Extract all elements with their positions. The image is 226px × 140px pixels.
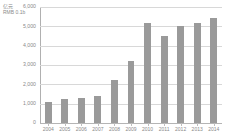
x-axis-tick-mark: [197, 123, 198, 126]
bar: [194, 23, 201, 123]
x-axis-tick-label: 2005: [57, 126, 74, 132]
x-axis-tick-mark: [131, 123, 132, 126]
x-axis-tick-label: 2012: [172, 126, 189, 132]
bar: [177, 26, 184, 123]
x-axis-tick-mark: [214, 123, 215, 126]
y-axis-tick-label: 1,000: [0, 101, 36, 106]
bar: [78, 98, 85, 123]
x-axis-tick-label: 2007: [90, 126, 107, 132]
y-axis-tick-label: 5,000: [0, 24, 36, 29]
x-axis-tick-label: 2013: [189, 126, 206, 132]
x-axis-tick-mark: [114, 123, 115, 126]
y-axis-tick-label: 3,000: [0, 62, 36, 67]
bar: [94, 96, 101, 123]
x-axis-tick-mark: [148, 123, 149, 126]
bars-layer: [40, 7, 222, 123]
bar: [128, 61, 135, 123]
bar-chart: 亿元 RMB 0.1b 01,0002,0003,0004,0005,0006,…: [0, 0, 226, 140]
x-axis-tick-label: 2014: [205, 126, 222, 132]
x-axis-tick-label: 2011: [156, 126, 173, 132]
bar: [161, 36, 168, 123]
y-axis-unit-caption: 亿元 RMB 0.1b: [3, 3, 43, 15]
x-axis-tick-labels: 2004200520062007200820092010201120122013…: [40, 126, 222, 136]
bar: [61, 99, 68, 123]
x-axis-tick-label: 2010: [139, 126, 156, 132]
x-axis-tick-label: 2004: [40, 126, 57, 132]
x-axis-tick-mark: [48, 123, 49, 126]
x-axis-tick-label: 2006: [73, 126, 90, 132]
x-axis-tick-mark: [181, 123, 182, 126]
y-axis-unit-line-2: RMB 0.1b: [3, 9, 43, 15]
plot-area: [40, 7, 222, 123]
x-axis-tick-mark: [65, 123, 66, 126]
x-axis-tick-mark: [81, 123, 82, 126]
y-axis-tick-label: 4,000: [0, 43, 36, 48]
y-axis-tick-label: 0: [0, 120, 36, 125]
bar: [45, 102, 52, 123]
x-axis-tick-mark: [98, 123, 99, 126]
bar: [111, 80, 118, 123]
y-axis-tick-label: 2,000: [0, 82, 36, 87]
x-axis-tick-mark: [164, 123, 165, 126]
x-axis-tick-label: 2009: [123, 126, 140, 132]
bar: [144, 23, 151, 123]
bar: [210, 18, 217, 123]
x-axis-tick-label: 2008: [106, 126, 123, 132]
